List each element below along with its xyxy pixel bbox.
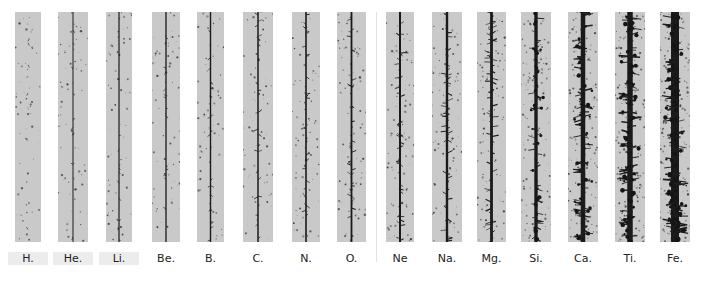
track-image [521, 12, 551, 242]
element-label: Ti. [610, 252, 650, 265]
element-label: N. [286, 252, 326, 265]
element-label: Li. [99, 252, 139, 265]
track-strip [243, 12, 273, 242]
element-label: Mg. [472, 252, 512, 265]
track-strip [106, 12, 132, 242]
track-strip [568, 12, 598, 242]
track-strip [337, 12, 366, 242]
element-label: Na. [427, 252, 467, 265]
track-strip [615, 12, 645, 242]
track-image [243, 12, 273, 242]
track-strip [386, 12, 414, 242]
track-image [15, 12, 41, 242]
track-strip [521, 12, 551, 242]
track-image [568, 12, 598, 242]
group-separator-line [376, 12, 377, 262]
track-strip [197, 12, 224, 242]
element-label: H. [8, 252, 48, 265]
element-label: Be. [146, 252, 186, 265]
element-label: B. [191, 252, 231, 265]
track-image [337, 12, 366, 242]
track-image [292, 12, 320, 242]
track-image [386, 12, 414, 242]
track-image [660, 12, 690, 242]
track-image [197, 12, 224, 242]
track-image [615, 12, 645, 242]
track-strip [660, 12, 690, 242]
element-label: Ne [380, 252, 420, 265]
element-label: C. [238, 252, 278, 265]
track-image [432, 12, 462, 242]
track-strip [292, 12, 320, 242]
track-strip [15, 12, 41, 242]
element-label: Si. [516, 252, 556, 265]
track-image [58, 12, 88, 242]
track-strip [432, 12, 462, 242]
element-label: Ca. [563, 252, 603, 265]
element-label: O. [332, 252, 372, 265]
track-image [152, 12, 180, 242]
track-image [477, 12, 506, 242]
track-strip [477, 12, 506, 242]
element-label: He. [53, 252, 93, 265]
element-label: Fe. [655, 252, 695, 265]
track-strip [58, 12, 88, 242]
track-strip [152, 12, 180, 242]
track-image [106, 12, 132, 242]
